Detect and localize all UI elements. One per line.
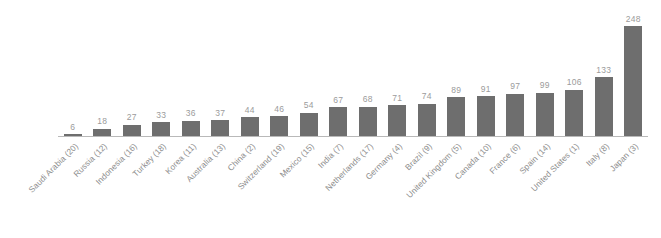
bar[interactable]: [477, 96, 495, 137]
bar-value-label: 91: [481, 84, 491, 95]
bar-group[interactable]: 91: [472, 8, 500, 137]
bar-group[interactable]: 248: [619, 8, 647, 137]
bar-group[interactable]: 44: [236, 8, 264, 137]
bar-group[interactable]: 6: [59, 8, 87, 137]
bar-value-label: 18: [97, 116, 107, 127]
bar-group[interactable]: 71: [383, 8, 411, 137]
bar-group[interactable]: 27: [118, 8, 146, 137]
bar-group[interactable]: 99: [531, 8, 559, 137]
bar[interactable]: [506, 94, 524, 137]
bar-group[interactable]: 133: [590, 8, 618, 137]
x-axis-line: [58, 136, 648, 137]
bar-group[interactable]: 89: [442, 8, 470, 137]
bar-value-label: 46: [274, 104, 284, 115]
bar[interactable]: [624, 26, 642, 137]
bar-value-label: 99: [540, 80, 550, 91]
bar-value-label: 54: [304, 100, 314, 111]
bar-value-label: 248: [626, 14, 641, 25]
bar-value-label: 89: [451, 85, 461, 96]
bar-group[interactable]: 54: [295, 8, 323, 137]
bar[interactable]: [182, 121, 200, 137]
bar-value-label: 36: [186, 108, 196, 119]
bar-value-label: 37: [215, 108, 225, 119]
bar-value-label: 74: [422, 91, 432, 102]
bar-value-label: 97: [510, 81, 520, 92]
bar-value-label: 68: [363, 94, 373, 105]
bar-group[interactable]: 36: [177, 8, 205, 137]
bar-group[interactable]: 97: [501, 8, 529, 137]
bar-value-label: 44: [245, 105, 255, 116]
plot-area: 6182733363744465467687174899197991061332…: [58, 8, 648, 137]
bar[interactable]: [241, 117, 259, 137]
bar-group[interactable]: 106: [560, 8, 588, 137]
bar[interactable]: [388, 105, 406, 137]
bar[interactable]: [300, 113, 318, 137]
bar[interactable]: [536, 93, 554, 137]
bar-group[interactable]: 18: [88, 8, 116, 137]
bar-value-label: 67: [333, 95, 343, 106]
bar[interactable]: [595, 77, 613, 137]
bar-group[interactable]: 74: [413, 8, 441, 137]
bar-value-label: 133: [596, 65, 611, 76]
bar-group[interactable]: 33: [147, 8, 175, 137]
category-label: Saudi Arabia (20): [0, 141, 80, 238]
bar[interactable]: [329, 107, 347, 137]
bar[interactable]: [447, 97, 465, 137]
bar-value-label: 71: [392, 93, 402, 104]
bar-group[interactable]: 46: [265, 8, 293, 137]
bar[interactable]: [418, 104, 436, 137]
bar-group[interactable]: 67: [324, 8, 352, 137]
bar[interactable]: [359, 107, 377, 137]
bar-value-label: 6: [70, 122, 75, 133]
bar[interactable]: [270, 116, 288, 137]
bar-value-label: 27: [127, 112, 137, 123]
bar-chart: 6182733363744465467687174899197991061332…: [0, 0, 661, 238]
bar-group[interactable]: 68: [354, 8, 382, 137]
bar-value-label: 33: [156, 110, 166, 121]
bar[interactable]: [565, 90, 583, 137]
bar[interactable]: [211, 120, 229, 137]
bar-group[interactable]: 37: [206, 8, 234, 137]
bar-value-label: 106: [567, 77, 582, 88]
bar[interactable]: [152, 122, 170, 137]
